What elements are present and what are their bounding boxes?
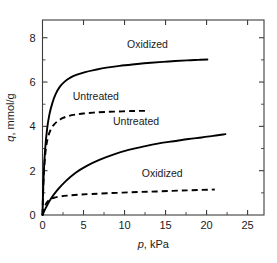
x-tick-label: 15 [159, 219, 171, 231]
y-axis-tick-labels: 02468 [29, 32, 35, 221]
series-label-1: Untreated [73, 90, 119, 102]
x-axis-tick-labels: 0510152025 [39, 219, 253, 231]
x-tick-label: 25 [241, 219, 253, 231]
series-annotations-group: OxidizedUntreatedUntreatedOxidized [73, 38, 183, 179]
chart-canvas: 0510152025 02468 OxidizedUntreatedUntrea… [0, 0, 277, 263]
data-series-group [43, 59, 226, 215]
x-axis-title: p, kPa [137, 238, 170, 250]
series-label-0: Oxidized [127, 38, 168, 50]
x-tick-label: 5 [80, 219, 86, 231]
series-label-3: Oxidized [142, 167, 183, 179]
x-tick-label: 0 [39, 219, 45, 231]
chart-figure: 0510152025 02468 OxidizedUntreatedUntrea… [0, 0, 277, 263]
y-tick-label: 6 [29, 76, 35, 88]
y-axis-title-text: q, mmol/g [4, 93, 16, 141]
y-axis-title: q, mmol/g [4, 93, 16, 141]
x-tick-label: 10 [118, 219, 130, 231]
y-tick-label: 0 [29, 209, 35, 221]
x-tick-label: 20 [200, 219, 212, 231]
y-tick-label: 2 [29, 165, 35, 177]
series-curve-3 [43, 190, 215, 215]
x-axis-title-text: p, kPa [137, 238, 170, 250]
y-tick-label: 4 [29, 120, 35, 132]
series-curve-2 [43, 134, 226, 215]
y-tick-label: 8 [29, 32, 35, 44]
series-label-2: Untreated [113, 115, 159, 127]
